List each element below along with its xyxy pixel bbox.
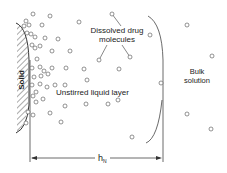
molecule-icon	[56, 37, 60, 41]
molecule-icon	[38, 44, 42, 48]
molecule-icon	[26, 110, 30, 114]
molecule-icon	[38, 82, 42, 86]
molecule-icon	[40, 23, 44, 27]
molecule-icon	[34, 90, 38, 94]
leader-line	[99, 45, 107, 60]
molecule-icon	[130, 135, 134, 139]
molecule-icon	[116, 98, 120, 102]
molecule-icon	[46, 72, 50, 76]
unstirred-layer-label: Unstirred liquid layer	[56, 88, 129, 97]
molecule-icon	[31, 94, 35, 98]
molecule-icon	[110, 12, 114, 16]
molecule-icon	[117, 67, 121, 71]
bulk-label-line1: Bulk	[190, 67, 205, 76]
molecule-icon	[209, 127, 213, 131]
molecule-icon	[97, 58, 101, 62]
molecule-icon	[77, 20, 81, 24]
molecule-icon	[24, 121, 28, 125]
thickness-label: hN	[98, 153, 107, 164]
molecule-icon	[159, 81, 163, 85]
dissolved-label-line1: Dissolved drug	[91, 26, 144, 35]
molecule-icon	[64, 66, 68, 70]
molecule-icon	[43, 36, 47, 40]
solid-label: Solid	[17, 70, 26, 90]
molecule-icon	[45, 85, 49, 89]
molecule-icon	[85, 78, 89, 82]
molecule-icon	[34, 100, 38, 104]
arrowhead-right-icon	[156, 156, 162, 160]
layer-bottom-curve	[146, 100, 162, 143]
molecule-icon	[148, 33, 152, 37]
molecule-icon	[59, 120, 63, 124]
molecule-icon	[31, 113, 35, 117]
molecule-icon	[82, 67, 86, 71]
molecule-icon	[30, 83, 34, 87]
molecule-icon	[30, 66, 34, 70]
diagram-svg: Solid hN Dissolved drug molecules Unstir…	[0, 0, 227, 173]
molecule-icon	[24, 19, 28, 23]
molecule-icon	[185, 23, 189, 27]
arrowhead-left-icon	[31, 156, 37, 160]
molecule-icon	[32, 75, 36, 79]
molecule-icon	[68, 49, 72, 53]
molecule-icon	[25, 31, 29, 35]
molecule-icon	[106, 102, 110, 106]
molecule-icon	[35, 57, 39, 61]
molecule-icon	[31, 12, 35, 16]
molecule-icon	[48, 111, 52, 115]
bulk-label-line2: solution	[184, 76, 210, 85]
molecule-icon	[29, 32, 33, 36]
molecule-icon	[38, 65, 42, 69]
molecule-icon	[84, 102, 88, 106]
molecule-icon	[210, 54, 214, 58]
molecule-icon	[22, 24, 26, 28]
molecule-icon	[41, 97, 45, 101]
molecule-icon	[42, 69, 46, 73]
diffusion-layer-diagram: Solid hN Dissolved drug molecules Unstir…	[0, 0, 227, 173]
molecule-icon	[33, 35, 37, 39]
molecule-icon	[63, 104, 67, 108]
molecule-icon	[50, 66, 54, 70]
dissolved-label-line2: molecules	[99, 35, 135, 44]
molecule-icon	[50, 49, 54, 53]
molecule-icon	[128, 55, 132, 59]
molecule-icon	[185, 112, 189, 116]
molecule-icon	[48, 14, 52, 18]
molecule-icon	[39, 74, 43, 78]
molecule-icon	[27, 23, 31, 27]
molecule-icon	[53, 83, 57, 87]
molecule-icon	[33, 46, 37, 50]
molecule-icon	[63, 83, 67, 87]
